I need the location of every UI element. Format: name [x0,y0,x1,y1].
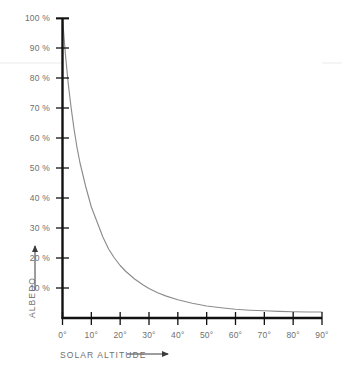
x-tick-label-30: 30° [134,330,164,340]
plot-area [62,18,322,318]
x-tick-label-60: 60° [221,330,251,340]
y-tick-label-60: 60 % [10,133,50,143]
y-tick-label-100: 100 % [10,13,50,23]
albedo-vs-solar-altitude-chart: 10 %20 %30 %40 %50 %60 %70 %80 %90 %100 … [0,0,342,371]
y-tick-label-90: 90 % [10,43,50,53]
y-tick-label-70: 70 % [10,103,50,113]
y-tick-label-30: 30 % [10,223,50,233]
y-axis-title: ALBEDO [27,277,37,318]
x-tick-label-10: 10° [76,330,106,340]
y-tick-label-40: 40 % [10,193,50,203]
x-tick-label-0: 0° [48,330,78,340]
y-tick-label-20: 20 % [10,253,50,263]
x-tick-label-70: 70° [249,330,279,340]
x-axis-title: SOLAR ALTITUDE [60,350,147,360]
y-tick-label-80: 80 % [10,73,50,83]
y-tick-label-50: 50 % [10,163,50,173]
x-tick-label-90: 90° [307,330,337,340]
x-tick-label-50: 50° [192,330,222,340]
x-tick-label-20: 20° [105,330,135,340]
x-tick-label-80: 80° [278,330,308,340]
x-tick-label-40: 40° [163,330,193,340]
chart-canvas [0,0,342,371]
